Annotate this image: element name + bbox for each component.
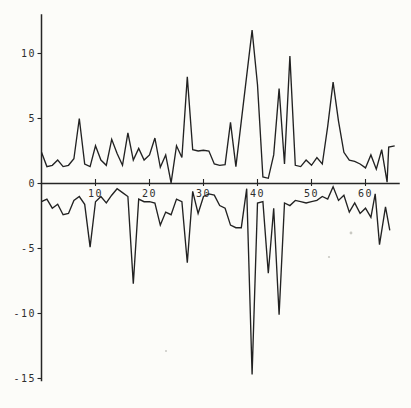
x-tick-label: 20 — [142, 188, 157, 199]
y-tick-label: -10 — [13, 308, 36, 319]
scan-speck — [165, 350, 167, 352]
y-tick-label: -5 — [21, 243, 36, 254]
dual-line-chart: 1020304050601050-5-10-15 — [0, 0, 411, 408]
lower-line-series — [42, 187, 390, 375]
y-tick-label: 5 — [28, 113, 36, 124]
x-tick-label: 60 — [358, 188, 373, 199]
upper-line-series — [42, 30, 395, 183]
scan-speck — [350, 232, 353, 235]
x-tick-label: 40 — [250, 188, 265, 199]
scanned-chart-page: 1020304050601050-5-10-15 — [0, 0, 411, 408]
scan-speck — [328, 256, 330, 258]
y-tick-label: -15 — [13, 373, 36, 384]
y-tick-label: 10 — [21, 48, 36, 59]
y-tick-label: 0 — [28, 178, 36, 189]
x-tick-label: 50 — [304, 188, 319, 199]
